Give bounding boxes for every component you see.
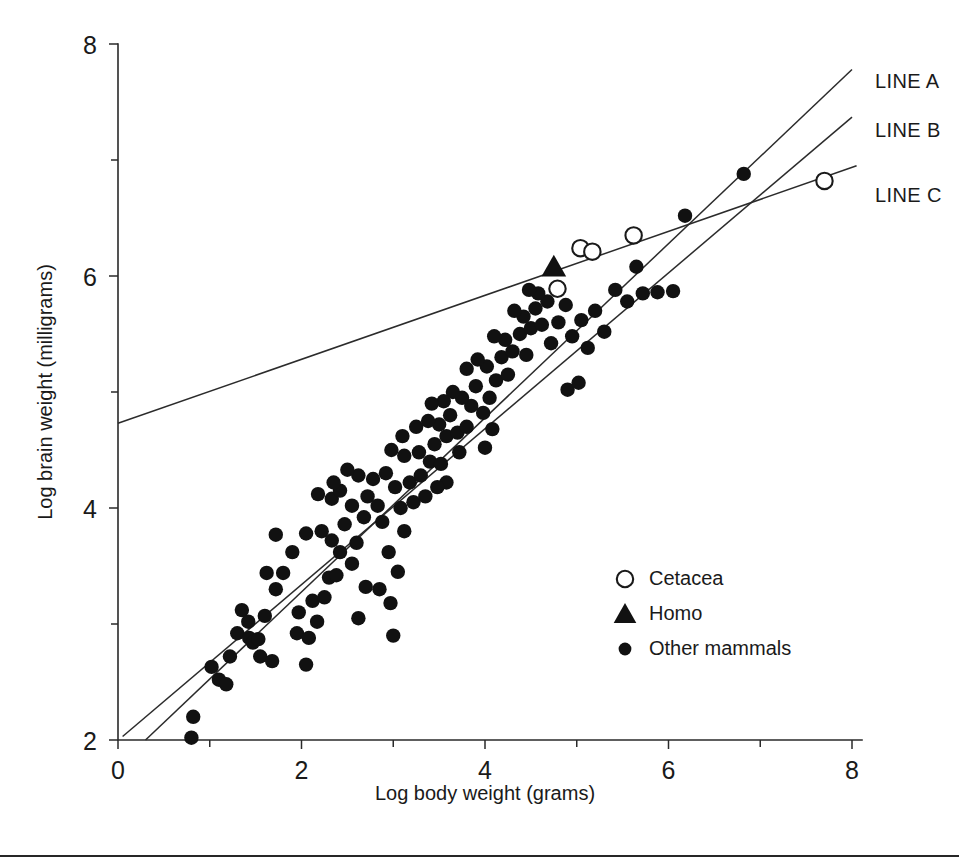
data-point-other-mammal: [351, 611, 365, 625]
annotation-line-c: LINE C: [875, 184, 942, 206]
legend-marker-other-mammals: [619, 643, 632, 656]
data-point-other-mammal: [381, 545, 395, 559]
data-point-other-mammal: [437, 394, 451, 408]
data-point-other-mammal: [559, 298, 573, 312]
data-point-other-mammal: [310, 614, 324, 628]
data-point-other-mammal: [482, 391, 496, 405]
data-point-other-mammal: [397, 524, 411, 538]
data-point-other-mammal: [487, 329, 501, 343]
data-point-other-mammal: [443, 408, 457, 422]
data-point-other-mammal: [375, 515, 389, 529]
data-point-cetacea: [816, 173, 832, 189]
data-point-other-mammal: [333, 545, 347, 559]
data-point-other-mammal: [204, 660, 218, 674]
data-point-other-mammal: [485, 422, 499, 436]
legend-label-homo: Homo: [649, 602, 702, 624]
x-tick-label: 0: [111, 756, 125, 784]
legend-marker-cetacea: [617, 571, 633, 587]
data-point-other-mammal: [393, 501, 407, 515]
data-point-other-mammal: [519, 348, 533, 362]
data-point-other-mammal: [388, 480, 402, 494]
data-point-other-mammal: [478, 440, 492, 454]
data-point-other-mammal: [337, 517, 351, 531]
data-point-other-mammal: [409, 420, 423, 434]
data-point-other-mammal: [184, 730, 198, 744]
data-point-other-mammal: [329, 568, 343, 582]
data-point-other-mammal: [259, 566, 273, 580]
legend-label-other-mammals: Other mammals: [649, 637, 791, 659]
data-point-other-mammal: [434, 457, 448, 471]
data-point-other-mammal: [597, 324, 611, 338]
data-point-other-mammal: [501, 367, 515, 381]
y-tick-label: 2: [83, 727, 97, 755]
data-point-other-mammal: [427, 437, 441, 451]
data-point-other-mammal: [476, 406, 490, 420]
data-point-other-mammal: [650, 285, 664, 299]
data-point-other-mammal: [241, 614, 255, 628]
data-point-other-mammal: [379, 466, 393, 480]
data-point-other-mammal: [459, 420, 473, 434]
annotation-line-a: LINE A: [875, 70, 940, 92]
data-point-other-mammal: [551, 315, 565, 329]
legend-marker-homo: [614, 603, 637, 623]
fit-line-line-c: [118, 166, 857, 424]
data-point-other-mammal: [223, 649, 237, 663]
legend-label-cetacea: Cetacea: [649, 567, 724, 589]
data-point-other-mammal: [345, 498, 359, 512]
data-point-other-mammal: [372, 582, 386, 596]
data-point-other-mammal: [349, 536, 363, 550]
data-point-other-mammal: [299, 526, 313, 540]
data-point-other-mammal: [620, 294, 634, 308]
data-point-other-mammal: [395, 429, 409, 443]
data-point-other-mammal: [636, 286, 650, 300]
data-point-other-mammal: [571, 376, 585, 390]
annotation-line-b: LINE B: [875, 119, 941, 141]
y-axis-title: Log brain weight (milligrams): [34, 264, 56, 520]
data-point-other-mammal: [269, 527, 283, 541]
data-point-other-mammal: [357, 510, 371, 524]
data-point-other-mammal: [325, 533, 339, 547]
legend: CetaceaHomoOther mammals: [614, 567, 792, 659]
y-tick-label: 8: [83, 31, 97, 59]
data-point-other-mammal: [459, 362, 473, 376]
y-tick-label: 4: [83, 495, 97, 523]
data-point-other-mammal: [588, 304, 602, 318]
data-point-other-mammal: [629, 260, 643, 274]
series-homo: [541, 255, 566, 277]
data-point-other-mammal: [469, 379, 483, 393]
scatter-plot: 024682468Log body weight (grams)Log brai…: [0, 0, 959, 864]
figure-container: 024682468Log body weight (grams)Log brai…: [0, 0, 959, 864]
data-point-other-mammal: [452, 445, 466, 459]
data-point-other-mammal: [366, 472, 380, 486]
data-point-other-mammal: [574, 313, 588, 327]
data-point-other-mammal: [302, 631, 316, 645]
data-point-other-mammal: [544, 336, 558, 350]
data-point-other-mammal: [412, 445, 426, 459]
data-point-other-mammal: [251, 632, 265, 646]
x-tick-label: 4: [478, 756, 492, 784]
data-point-other-mammal: [359, 580, 373, 594]
data-point-cetacea: [625, 227, 641, 243]
data-point-other-mammal: [340, 463, 354, 477]
data-point-other-mammal: [326, 475, 340, 489]
y-tick-label: 6: [83, 263, 97, 291]
data-point-cetacea: [549, 281, 565, 297]
x-tick-label: 6: [662, 756, 676, 784]
data-point-other-mammal: [581, 341, 595, 355]
data-point-other-mammal: [391, 565, 405, 579]
data-point-other-mammal: [737, 167, 751, 181]
data-point-other-mammal: [666, 284, 680, 298]
data-point-homo: [541, 255, 566, 277]
data-point-other-mammal: [383, 596, 397, 610]
data-point-other-mammal: [386, 628, 400, 642]
data-point-other-mammal: [397, 449, 411, 463]
series-cetacea: [549, 173, 832, 297]
data-point-other-mammal: [285, 545, 299, 559]
x-tick-label: 8: [845, 756, 859, 784]
data-point-other-mammal: [430, 480, 444, 494]
data-point-other-mammal: [269, 582, 283, 596]
data-point-other-mammal: [317, 590, 331, 604]
data-point-other-mammal: [311, 487, 325, 501]
data-point-other-mammal: [299, 657, 313, 671]
data-point-cetacea: [584, 243, 600, 259]
